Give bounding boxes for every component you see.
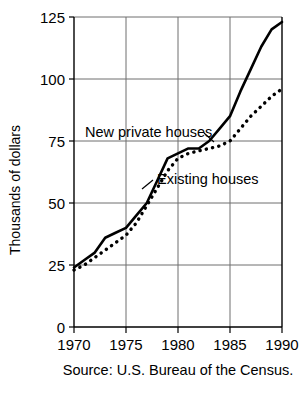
x-tick-label-1970: 1970 [57,336,90,353]
chart-figure: 125 100 75 50 25 0 1970 1975 1980 1985 1… [0,0,306,394]
x-tick-label-1975: 1975 [109,336,142,353]
y-tick-marks [69,17,74,327]
x-tick-labels: 1970 1975 1980 1985 1990 [57,336,298,353]
annotation-label-new-private-houses: New private houses [85,124,212,140]
y-tick-label-125: 125 [40,9,65,26]
x-tick-label-1980: 1980 [161,336,194,353]
x-tick-marks [74,327,282,333]
y-tick-label-25: 25 [48,257,65,274]
source-caption: Source: U.S. Bureau of the Census. [63,362,294,378]
y-tick-labels: 125 100 75 50 25 0 [40,9,65,336]
y-tick-label-50: 50 [48,195,65,212]
annotation-label-existing-houses: Existing houses [157,171,259,187]
x-tick-label-1985: 1985 [213,336,246,353]
y-axis-title: Thousands of dollars [7,125,23,255]
y-tick-label-0: 0 [57,319,65,336]
y-tick-label-75: 75 [48,133,65,150]
x-tick-label-1990: 1990 [265,336,298,353]
line-chart: 125 100 75 50 25 0 1970 1975 1980 1985 1… [0,0,306,394]
y-tick-label-100: 100 [40,71,65,88]
